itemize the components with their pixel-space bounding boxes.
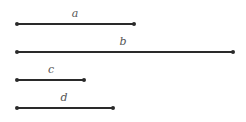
segment-b-label: b — [119, 35, 126, 48]
segment-c-end-point — [82, 78, 86, 82]
segment-d-end-point — [111, 106, 115, 110]
segment-c: c — [15, 63, 86, 82]
segment-d: d — [15, 91, 115, 110]
segments-diagram: a b c d — [0, 0, 246, 122]
segment-a-start-point — [15, 22, 19, 26]
segment-b-end-point — [231, 50, 235, 54]
segment-c-label: c — [48, 63, 54, 76]
segment-b-start-point — [15, 50, 19, 54]
segment-a: a — [15, 7, 136, 26]
segment-d-label: d — [60, 91, 67, 104]
segment-a-label: a — [72, 7, 79, 20]
segment-b: b — [15, 35, 235, 54]
segment-d-start-point — [15, 106, 19, 110]
segment-a-end-point — [132, 22, 136, 26]
segment-c-start-point — [15, 78, 19, 82]
